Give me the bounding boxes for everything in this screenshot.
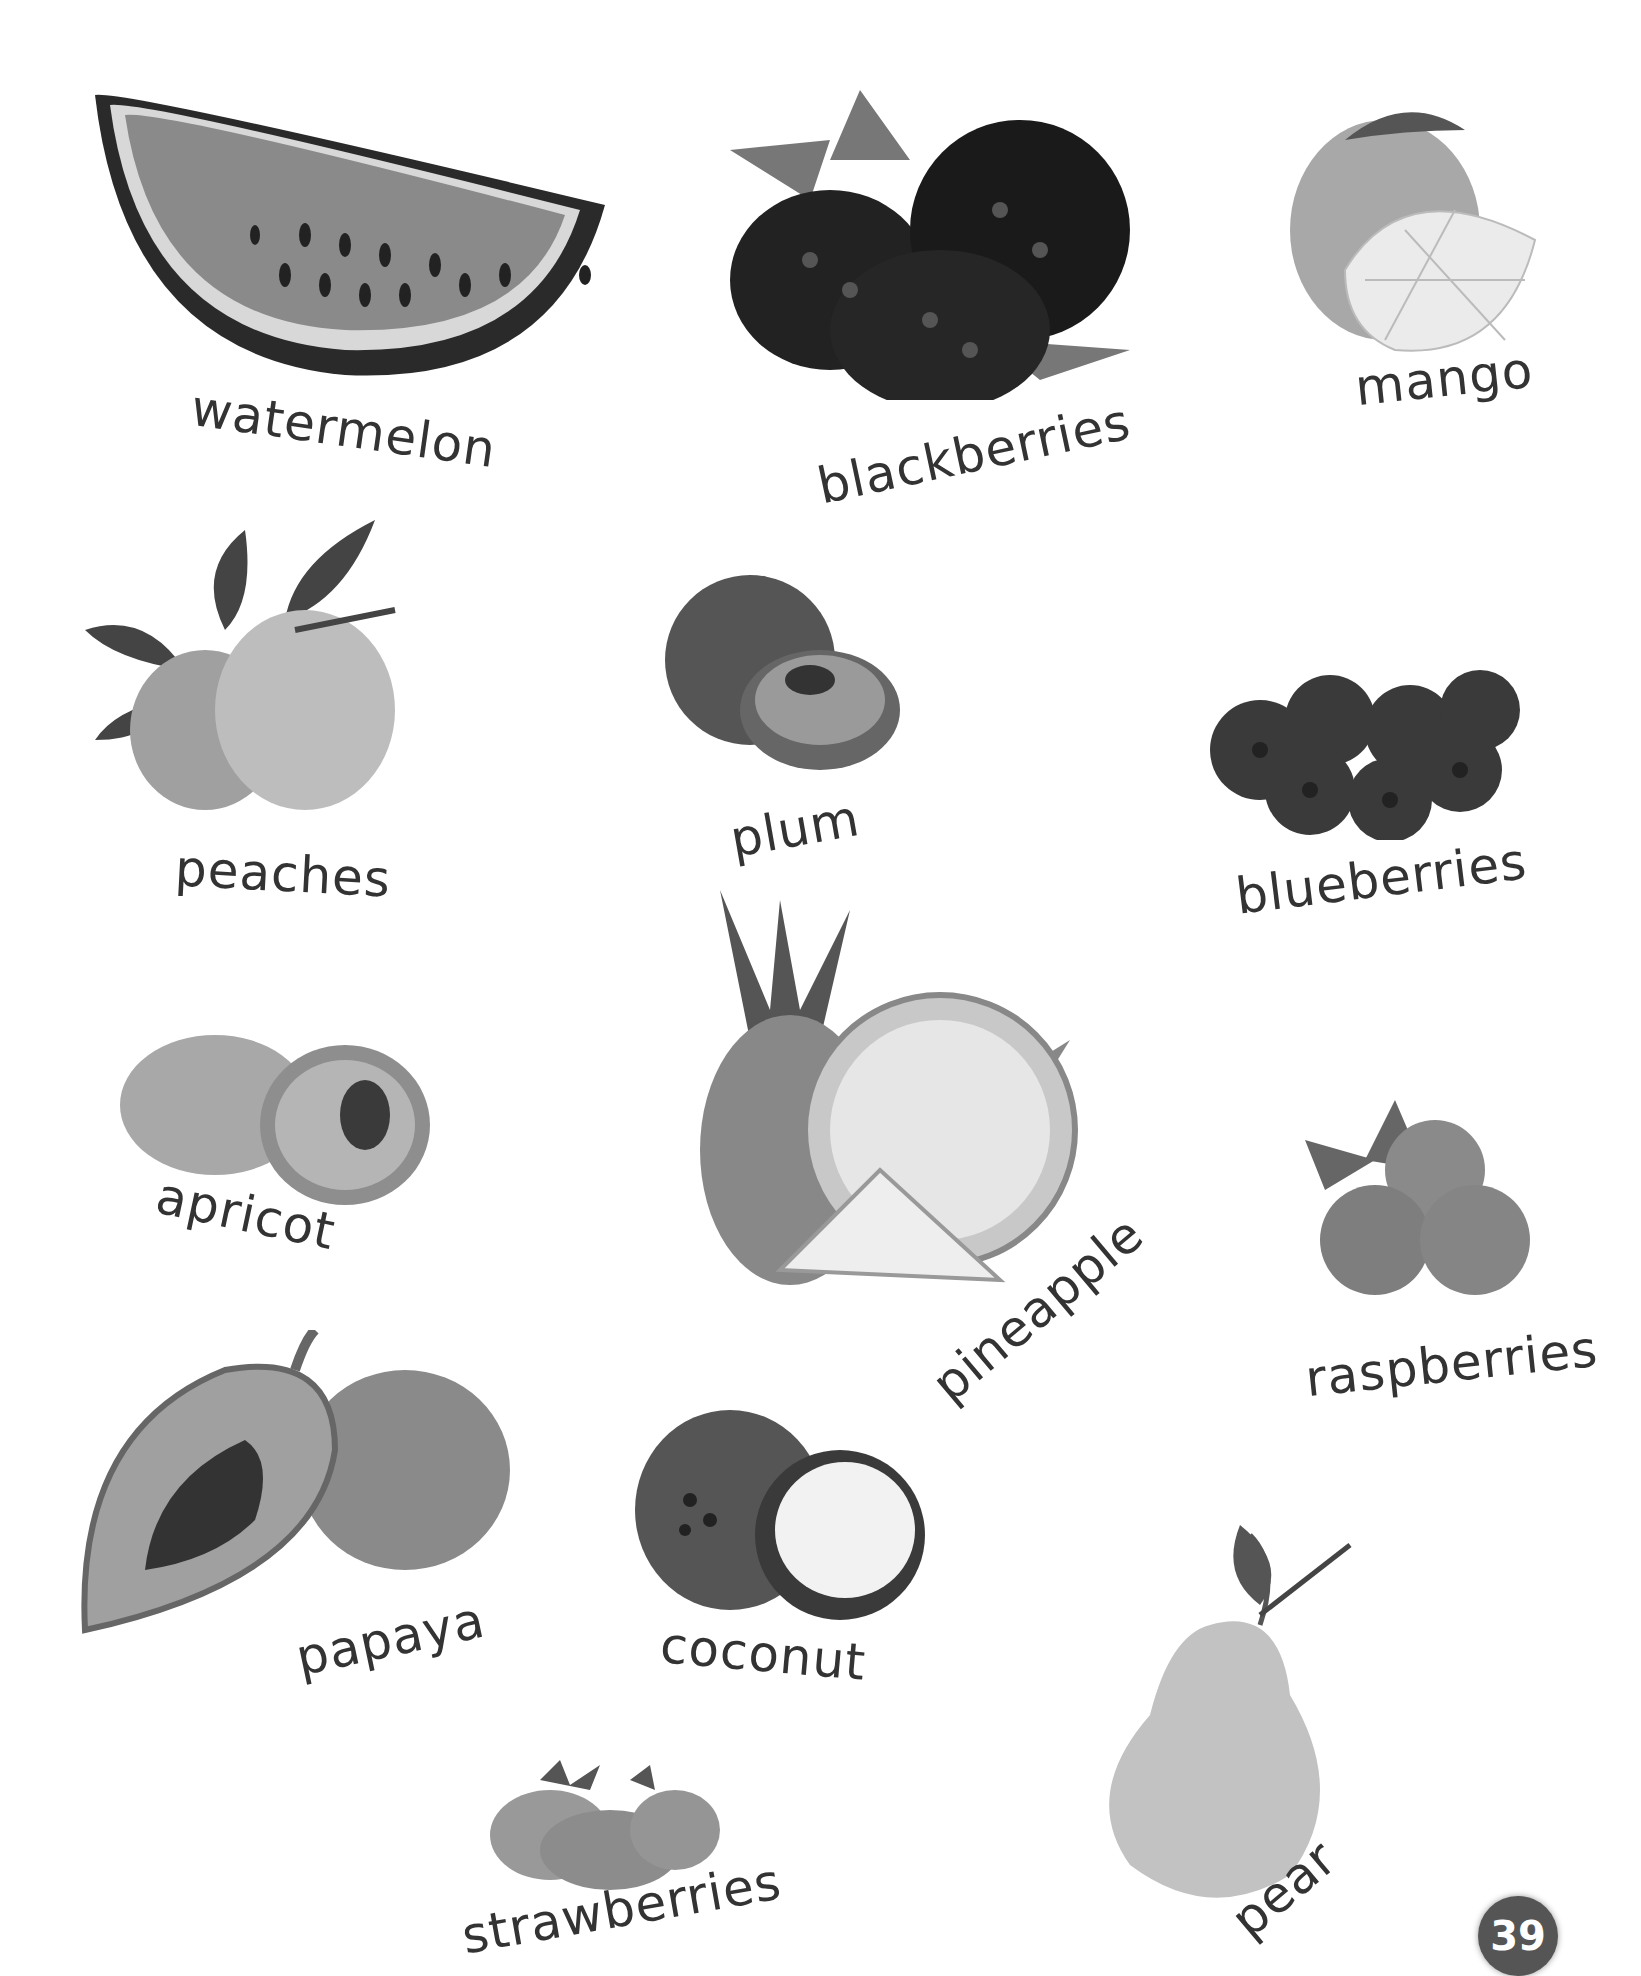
label-raspberries: raspberries xyxy=(1303,1320,1601,1408)
blackberries-image xyxy=(710,80,1160,400)
label-peaches: peaches xyxy=(174,839,393,908)
label-plum: plum xyxy=(726,789,864,869)
label-watermelon: watermelon xyxy=(187,379,499,479)
peaches-image xyxy=(85,510,405,820)
plum-image xyxy=(660,570,900,770)
coconut-image xyxy=(630,1410,930,1620)
mango-image xyxy=(1285,100,1545,360)
blueberries-image xyxy=(1200,660,1540,840)
label-blueberries: blueberries xyxy=(1233,832,1530,925)
label-blackberries: blackberries xyxy=(812,393,1135,516)
raspberries-image xyxy=(1305,1100,1545,1300)
watermelon-image xyxy=(85,85,615,385)
pineapple-image xyxy=(660,890,1100,1310)
label-coconut: coconut xyxy=(658,1616,868,1692)
page-number-badge: 39 xyxy=(1478,1896,1558,1976)
